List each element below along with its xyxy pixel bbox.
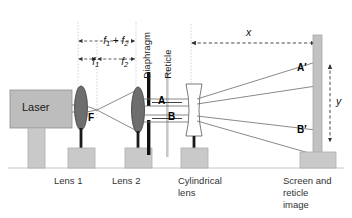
screen-label-line2: reticle [283, 188, 308, 199]
dimension-x-label: x [246, 27, 251, 39]
cylindrical-lens-label-line1: Cylindrical [178, 176, 222, 187]
lens-2-label: Lens 2 [112, 176, 141, 187]
screen-label-line3: image [283, 200, 309, 211]
f2-sub: 2 [124, 60, 128, 69]
laser-label: Laser [22, 101, 50, 113]
f1-sub: 1 [95, 60, 99, 69]
optical-diagram-figure: Laser F f1 + f2 f1 f2 x y Diaphragm Reti… [0, 0, 352, 218]
reticle-point-a-label: A [158, 95, 165, 106]
screen [300, 35, 336, 168]
image-point-a-prime-label: A′ [297, 62, 307, 73]
beam-lens1-to-lens2 [81, 90, 137, 131]
diaphragm-label: Diaphragm [142, 32, 153, 78]
image-point-b-prime-label: B′ [297, 124, 307, 135]
dimension-y-label: y [336, 96, 341, 108]
reticle-point-b-label: B [168, 111, 175, 122]
lens-1-label: Lens 1 [54, 176, 83, 187]
screen-label-line1: Screen and [283, 176, 332, 187]
dimension-f1-label: f1 [81, 45, 99, 80]
beam-cylindrical-lens-to-screen [197, 62, 316, 155]
reticle-label: Reticle [163, 50, 174, 79]
focus-point-label: F [88, 112, 94, 123]
dimension-f2-label: f2 [110, 45, 128, 80]
cylindrical-lens-label-line2: lens [178, 188, 195, 199]
diaphragm [147, 72, 150, 155]
